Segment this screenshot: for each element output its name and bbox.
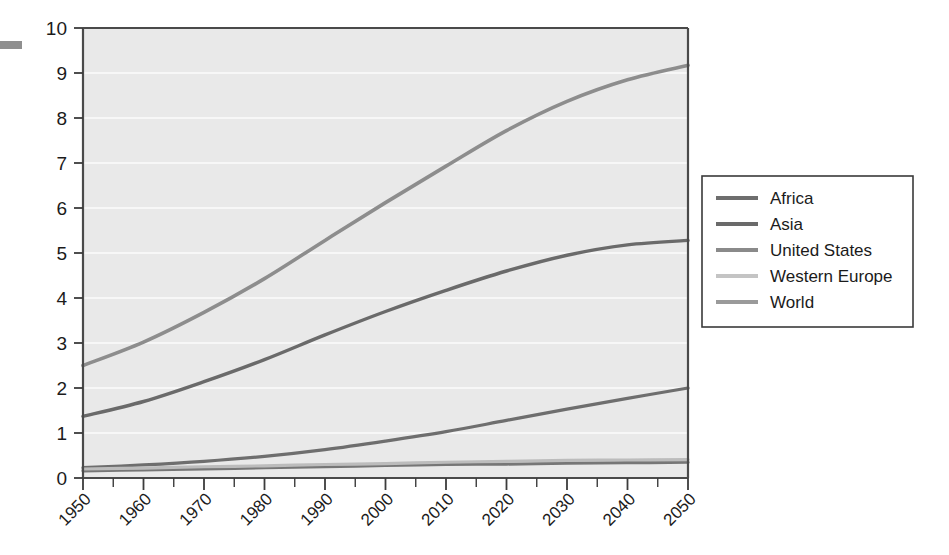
- y-tick-label-1: 1: [56, 423, 67, 444]
- y-tick-label-4: 4: [56, 288, 67, 309]
- legend: AfricaAsiaUnited StatesWestern EuropeWor…: [702, 176, 913, 327]
- edge-artifact-mark: [0, 41, 22, 49]
- y-tick-label-5: 5: [56, 243, 67, 264]
- chart-container: 012345678910 195019601970198019902000201…: [0, 0, 949, 555]
- legend-label-western-europe: Western Europe: [770, 267, 893, 286]
- y-tick-label-7: 7: [56, 153, 67, 174]
- y-tick-label-9: 9: [56, 63, 67, 84]
- legend-label-world: World: [770, 293, 814, 312]
- y-tick-label-0: 0: [56, 468, 67, 489]
- legend-label-united-states: United States: [770, 241, 872, 260]
- population-line-chart: 012345678910 195019601970198019902000201…: [0, 0, 949, 555]
- legend-label-asia: Asia: [770, 215, 804, 234]
- y-tick-label-10: 10: [46, 18, 67, 39]
- y-tick-label-8: 8: [56, 108, 67, 129]
- legend-label-africa: Africa: [770, 189, 814, 208]
- y-tick-label-2: 2: [56, 378, 67, 399]
- y-tick-label-3: 3: [56, 333, 67, 354]
- y-tick-label-6: 6: [56, 198, 67, 219]
